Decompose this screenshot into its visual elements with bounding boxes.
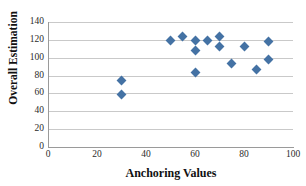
gridline bbox=[48, 129, 293, 130]
y-axis-title: Overall Estimation bbox=[7, 4, 19, 112]
x-tick-label: 0 bbox=[46, 150, 51, 160]
gridline bbox=[48, 93, 293, 94]
x-tick-label: 60 bbox=[190, 150, 200, 160]
x-tick-label: 20 bbox=[92, 150, 102, 160]
y-tick-label: 20 bbox=[2, 124, 44, 134]
scatter-chart: 020406080100120140 Overall Estimation An… bbox=[0, 0, 306, 186]
data-point-marker bbox=[190, 45, 200, 55]
y-tick-label: 0 bbox=[2, 142, 44, 152]
gridline bbox=[48, 22, 293, 23]
data-point-marker bbox=[117, 89, 127, 99]
data-point-marker bbox=[227, 59, 237, 69]
data-point-marker bbox=[202, 36, 212, 46]
x-axis-title: Anchoring Values bbox=[48, 166, 294, 181]
data-point-marker bbox=[166, 36, 176, 46]
x-axis-line bbox=[48, 147, 294, 148]
data-point-marker bbox=[264, 37, 274, 47]
plot-area bbox=[48, 22, 293, 147]
gridline bbox=[48, 76, 293, 77]
gridline bbox=[48, 111, 293, 112]
x-tick-label: 100 bbox=[286, 150, 300, 160]
data-point-marker bbox=[215, 41, 225, 51]
data-point-marker bbox=[239, 42, 249, 52]
y-axis-line bbox=[48, 22, 49, 148]
x-tick-label: 80 bbox=[239, 150, 249, 160]
x-tick-label: 40 bbox=[141, 150, 151, 160]
data-point-marker bbox=[117, 76, 127, 86]
gridline bbox=[48, 58, 293, 59]
data-point-marker bbox=[251, 64, 261, 74]
data-point-marker bbox=[264, 55, 274, 65]
